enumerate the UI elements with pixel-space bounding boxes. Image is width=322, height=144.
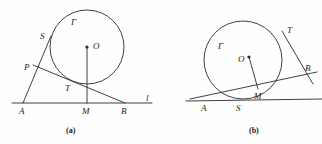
panel-a-circle-label: Γ bbox=[71, 18, 76, 27]
panel-a-center-dot bbox=[85, 45, 88, 48]
panel-a-line-label-l: l bbox=[146, 94, 149, 103]
panel-b-center-label-O: O bbox=[238, 55, 245, 64]
panel-a-center-label-O: O bbox=[93, 42, 100, 51]
panel-a-point-label-T: T bbox=[65, 84, 70, 93]
panel-b-group bbox=[186, 21, 322, 101]
panel-b-point-label-A: A bbox=[201, 104, 207, 113]
panel-a-point-label-B: B bbox=[121, 107, 127, 116]
geometry-figure-container: Γ O l A M B S P T (a) Γ O A S M T B (b) bbox=[0, 0, 322, 144]
panel-b-point-label-M: M bbox=[254, 92, 262, 101]
panel-a-line-P-to-B bbox=[33, 65, 125, 103]
panel-b-caption: (b) bbox=[249, 127, 259, 135]
panel-a-point-label-P: P bbox=[24, 63, 30, 72]
panel-a-point-label-S: S bbox=[40, 32, 45, 41]
panel-b-radius-O-to-M bbox=[249, 57, 258, 89]
panel-b-point-label-T: T bbox=[287, 26, 292, 35]
panel-b-circle-label: Γ bbox=[218, 42, 223, 51]
panel-b-center-dot bbox=[247, 55, 250, 58]
panel-b-point-label-S: S bbox=[236, 104, 241, 113]
panel-b-point-label-B: B bbox=[305, 64, 311, 73]
panel-a-point-label-A: A bbox=[19, 107, 25, 116]
geometry-diagram-svg bbox=[0, 0, 322, 144]
panel-a-point-label-M: M bbox=[82, 107, 90, 116]
panel-a-caption: (a) bbox=[66, 127, 75, 135]
panel-a-group bbox=[12, 10, 152, 103]
